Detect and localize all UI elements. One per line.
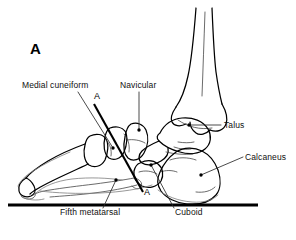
talus-trabecular-mark-2 (178, 142, 194, 143)
cuboid-label: Cuboid (175, 207, 203, 217)
calcaneus-leader-line (201, 157, 243, 175)
cut-marker-bottom-letter: A (144, 187, 150, 197)
navicular-group (124, 123, 148, 160)
first-metatarsal-dorsal-outline (26, 144, 85, 178)
calcaneus-label: Calcaneus (245, 152, 286, 162)
cuboid-leader-dot (149, 163, 152, 166)
navicular-tuberosity-line (127, 140, 145, 143)
label-calcaneus: Calcaneus (199, 152, 286, 177)
tibia-shaft-lateral-outline (176, 8, 196, 107)
foot-anatomy-diagram: A A A Medial cuneiform Navicular Talus C… (0, 0, 296, 240)
calcaneus-tuberosity-line (196, 187, 215, 192)
section-cut-line-a (94, 104, 143, 192)
heel-pad-contour (158, 190, 218, 202)
tibia-shaft-medial-outline (212, 8, 222, 104)
navicular-leader-dot (137, 128, 140, 131)
talus-leader-dot (187, 123, 190, 126)
soft-tissue-group (18, 152, 218, 202)
navicular-label: Navicular (120, 80, 156, 90)
calcaneus-leader-dot (199, 173, 202, 176)
tibia-distal-flare-lateral (171, 107, 186, 126)
medial-cuneiform-label: Medial cuneiform (22, 80, 88, 90)
navicular-outline (124, 123, 148, 160)
fifth-metatarsal-outline (33, 178, 134, 195)
fifth-metatarsal-label: Fifth metatarsal (60, 207, 120, 217)
medial-cuneiform-leader-dot (111, 146, 114, 149)
tibia-fibula-group (171, 8, 227, 134)
label-talus: Talus (187, 120, 244, 130)
calcaneus-posterior-facet-line (170, 158, 196, 160)
tibia-fibula-interosseous-line (202, 12, 205, 96)
foot-anatomy-figure: A A A Medial cuneiform Navicular Talus C… (0, 0, 296, 240)
label-fifth-metatarsal: Fifth metatarsal (60, 178, 120, 217)
cuneiform-group (84, 127, 129, 167)
first-metatarsal-plantar-outline (30, 164, 88, 194)
panel-letter: A (30, 40, 41, 57)
toe-contour (22, 197, 44, 200)
fifth-metatarsal-leader-dot (114, 178, 117, 181)
cut-marker-top-letter: A (94, 91, 100, 101)
talus-label: Talus (224, 120, 244, 130)
